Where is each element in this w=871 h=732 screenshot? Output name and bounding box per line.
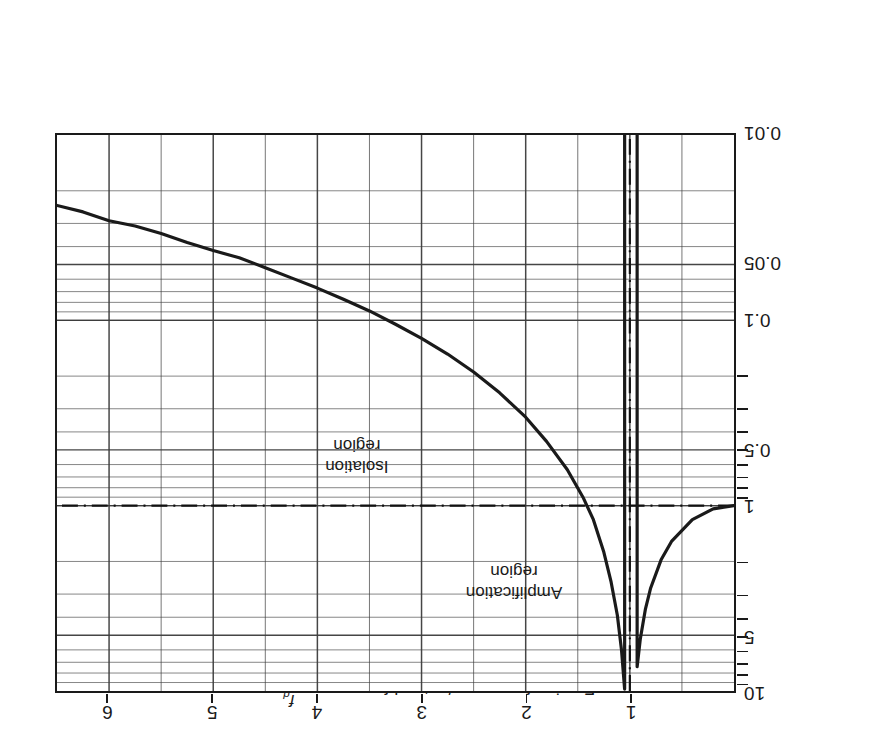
isolation-region-line2: region [325,435,388,456]
y-tick-mark-minor [737,431,748,433]
frac-num: f [290,691,295,710]
x-tick-label: 1 [626,701,637,723]
amplification-region-line2: region [466,561,562,582]
x-tick-mark [526,694,528,703]
x-tick-label: 3 [416,701,427,723]
curve-path [637,135,734,667]
transmissibility-curve [57,135,734,689]
isolation-region-line1: Isolation [325,456,388,477]
curve-path [57,135,625,689]
y-tick-label: 0.5 [744,439,784,461]
x-tick-mark [211,694,213,703]
y-tick-mark-minor [737,408,748,410]
y-tick-mark-minor [737,651,748,653]
y-tick-mark-minor [737,636,748,638]
y-tick-label: 0.05 [744,252,784,274]
isolation-region: Isolationregion [325,435,388,478]
plot-svg [57,135,734,691]
y-tick-mark-minor [737,449,748,451]
y-tick-mark-minor [737,674,748,676]
y-tick-mark-minor [737,562,748,564]
y-tick-label: 0.1 [744,309,784,331]
reference-lines [57,135,734,691]
y-tick-label: 0.01 [744,122,784,144]
y-tick-mark-minor [737,487,748,489]
y-tick-mark-minor [737,595,748,597]
y-tick-mark-minor [737,618,748,620]
grid-minor [57,135,734,691]
x-tick-label: 4 [312,701,323,723]
amplification-region: Amplificationregion [466,561,562,604]
x-tick-label: 5 [207,701,218,723]
y-tick-mark-minor [737,663,748,665]
y-tick-label: 5 [744,626,784,648]
x-tick-label: 2 [521,701,532,723]
y-tick-mark-minor [737,477,748,479]
x-tick-mark [107,694,109,703]
transmissibility-chart: Forcing frequency/natural frequency, fd … [0,0,871,732]
x-tick-label: 6 [102,701,113,723]
y-tick-mark-minor [737,375,748,377]
x-tick-mark [421,694,423,703]
amplification-region-line1: Amplification [466,582,562,603]
x-tick-mark [316,694,318,703]
y-tick-label: 1 [744,495,784,517]
figure-rotator: Forcing frequency/natural frequency, fd … [0,0,871,732]
y-tick-mark-minor [737,684,748,686]
x-tick-mark [630,694,632,703]
y-tick-mark-minor [737,464,748,466]
y-tick-label: 10 [744,682,784,704]
grid-major [57,135,734,691]
plot-area: AmplificationregionIsolationregion [55,133,736,693]
y-tick-mark-minor [737,497,748,499]
